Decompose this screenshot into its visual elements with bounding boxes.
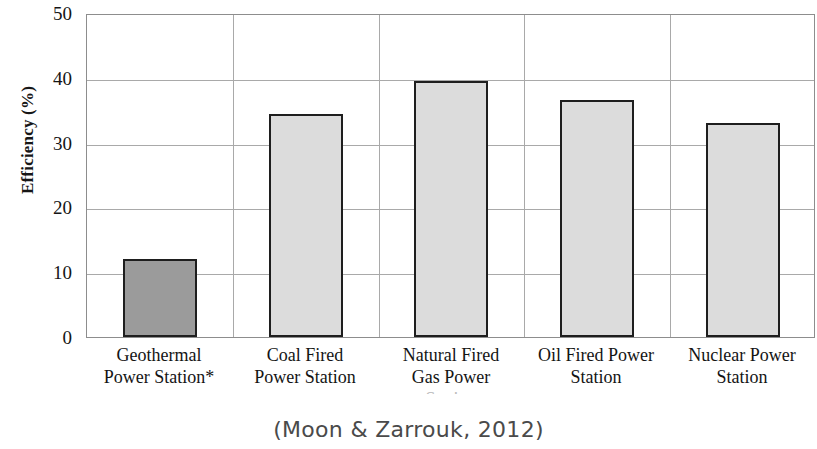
- y-tick-30: 30: [12, 133, 72, 155]
- x-label-oil: Oil Fired Power Station: [516, 344, 676, 388]
- y-tick-50: 50: [12, 3, 72, 25]
- x-label-geothermal-line1: Geothermal: [117, 345, 202, 365]
- y-tick-20: 20: [12, 197, 72, 219]
- x-label-nuclear: Nuclear Power Station: [666, 344, 817, 388]
- bar-series: [87, 15, 814, 337]
- x-label-coal-line1: Coal Fired: [267, 345, 344, 365]
- bar-chart-figure: Efficiency (%) 50 40 30 20 10 0: [0, 0, 817, 449]
- x-label-coal-line2: Power Station: [254, 367, 356, 387]
- x-label-oil-line2: Station: [570, 367, 621, 387]
- x-label-natural-gas: Natural Fired Gas Power Station: [374, 344, 528, 394]
- y-tick-40: 40: [12, 68, 72, 90]
- x-label-natural-gas-line1: Natural Fired: [403, 345, 499, 365]
- x-label-nuclear-line2: Station: [716, 367, 767, 387]
- x-label-geothermal-line2: Power Station*: [104, 367, 215, 387]
- bar-geothermal: [123, 259, 197, 337]
- bar-oil: [560, 100, 634, 337]
- bar-natural-gas: [414, 81, 488, 337]
- bar-slot-coal: [233, 15, 379, 337]
- y-tick-10: 10: [12, 262, 72, 284]
- x-axis-category-labels: Geothermal Power Station* Coal Fired Pow…: [86, 344, 815, 414]
- bar-slot-natural-gas: [379, 15, 525, 337]
- bar-slot-oil: [524, 15, 670, 337]
- x-label-oil-line1: Oil Fired Power: [538, 345, 654, 365]
- x-label-nuclear-line1: Nuclear Power: [688, 345, 795, 365]
- y-tick-0: 0: [12, 327, 72, 349]
- x-label-natural-gas-line3: Station: [374, 388, 528, 394]
- bar-coal: [269, 114, 343, 337]
- plot-area: [86, 14, 815, 338]
- x-label-coal: Coal Fired Power Station: [228, 344, 382, 388]
- figure-caption: (Moon & Zarrouk, 2012): [0, 417, 817, 442]
- x-label-natural-gas-line2: Gas Power: [412, 367, 491, 387]
- x-label-geothermal: Geothermal Power Station*: [80, 344, 238, 388]
- bar-slot-geothermal: [87, 15, 233, 337]
- bar-nuclear: [706, 123, 780, 337]
- bar-slot-nuclear: [670, 15, 816, 337]
